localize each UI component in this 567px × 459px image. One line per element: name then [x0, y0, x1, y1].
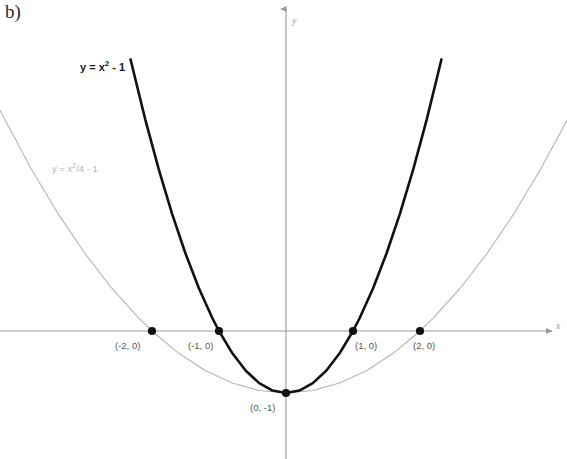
- marked-point: [215, 327, 223, 335]
- marked-point: [282, 389, 290, 397]
- parabola-plot: [0, 0, 567, 459]
- curve-gray-quarter-parabola: [0, 110, 567, 393]
- marked-point: [349, 327, 357, 335]
- curve-group: [0, 59, 567, 393]
- marked-point: [416, 327, 424, 335]
- marked-point: [148, 327, 156, 335]
- figure-container: b) y = x2 - 1 y = x2/4 - 1 x y (-2, 0) (…: [0, 0, 567, 459]
